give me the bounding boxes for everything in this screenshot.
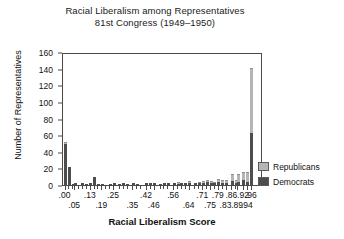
y-axis: Number of Representatives 02040608010012… <box>0 48 62 193</box>
x-tick-label: .94 <box>241 201 253 210</box>
x-minor-tick-mark <box>119 186 120 189</box>
y-tick-label: 140 <box>39 66 53 74</box>
bar-segment-democrats <box>242 180 245 185</box>
histogram-bar <box>113 183 116 185</box>
histogram-bar <box>206 180 209 185</box>
bar-segment-democrats <box>177 184 180 185</box>
x-minor-tick-mark <box>181 186 182 189</box>
x-minor-tick-mark <box>132 186 133 189</box>
x-minor-tick-mark <box>189 186 190 189</box>
bar-segment-democrats <box>231 181 234 185</box>
histogram-bar <box>194 183 197 185</box>
bar-segment-democrats <box>149 183 152 185</box>
x-minor-tick-mark <box>173 186 174 189</box>
x-minor-tick-mark <box>109 186 110 189</box>
bar-segment-democrats <box>109 184 112 185</box>
histogram-bar <box>109 184 112 185</box>
histogram-bar <box>74 183 77 185</box>
bar-segment-democrats <box>184 183 187 185</box>
histogram-bar <box>167 183 170 185</box>
x-minor-tick-mark <box>68 186 69 189</box>
x-minor-tick-mark <box>231 186 232 189</box>
y-axis-title: Number of Representatives <box>13 35 23 175</box>
histogram-bar <box>136 184 139 185</box>
x-minor-tick-mark <box>177 186 178 189</box>
histogram-bar <box>213 182 216 185</box>
bar-segment-republicans <box>242 172 245 180</box>
x-minor-tick-mark <box>136 186 137 189</box>
x-tick-label: .42 <box>140 191 152 200</box>
bar-segment-democrats <box>122 183 125 185</box>
x-minor-tick-mark <box>226 186 227 189</box>
histogram-bar <box>163 183 166 185</box>
bar-segment-democrats <box>68 167 71 185</box>
bar-segment-democrats <box>202 183 205 185</box>
histogram-bar <box>202 181 205 185</box>
chart-subtitle: 81st Congress (1949–1950) <box>40 17 270 29</box>
x-minor-tick-mark <box>235 186 236 189</box>
x-tick-label: .56 <box>167 191 179 200</box>
x-minor-tick-mark <box>113 186 114 189</box>
x-tick-label: .13 <box>84 191 96 200</box>
x-minor-tick-mark <box>72 186 73 189</box>
bar-segment-democrats <box>180 183 183 185</box>
bar-segment-democrats <box>126 184 129 185</box>
histogram-bar <box>64 142 67 185</box>
x-tick-label: .35 <box>126 201 138 210</box>
x-minor-tick-mark <box>101 186 102 189</box>
x-tick-label: .79 <box>212 191 224 200</box>
bar-segment-democrats <box>173 183 176 185</box>
x-tick-label: .00 <box>59 191 71 200</box>
x-minor-tick-mark <box>237 186 238 189</box>
bar-segment-democrats <box>221 183 224 185</box>
x-minor-tick-mark <box>105 186 106 189</box>
x-minor-tick-mark <box>154 186 155 189</box>
legend-label-democrats: Democrats <box>273 177 314 187</box>
bar-segment-democrats <box>81 183 84 185</box>
x-minor-tick-mark <box>127 186 128 189</box>
histogram-bar <box>242 172 245 185</box>
bar-segment-democrats <box>167 183 170 185</box>
histogram-bar <box>126 184 129 185</box>
histogram-bar <box>122 183 125 185</box>
histogram-bar <box>221 180 224 185</box>
histogram-bar <box>198 182 201 185</box>
x-minor-tick-mark <box>167 186 168 189</box>
x-minor-tick-mark <box>202 186 203 189</box>
histogram-bar <box>173 183 176 185</box>
histogram-bar <box>188 181 191 185</box>
bar-segment-democrats <box>159 184 162 185</box>
chart-title: Racial Liberalism among Representatives <box>40 5 270 17</box>
histogram-bar <box>93 177 96 185</box>
bar-segment-democrats <box>101 184 104 185</box>
x-minor-tick-mark <box>97 186 98 189</box>
bar-segment-democrats <box>113 183 116 185</box>
histogram-bar <box>85 184 88 185</box>
x-minor-tick-mark <box>140 186 141 189</box>
histogram-bar <box>101 184 104 185</box>
x-tick-label: .83 <box>220 201 232 210</box>
bar-segment-democrats <box>93 177 96 185</box>
bar-segment-republicans <box>231 174 234 181</box>
bar-segment-democrats <box>74 183 77 185</box>
histogram-bar <box>217 179 220 185</box>
histogram-bar <box>250 68 253 185</box>
x-minor-tick-mark <box>210 186 211 189</box>
bar-segment-democrats <box>237 182 240 185</box>
y-tick-label: 120 <box>39 82 53 90</box>
bar-segment-republicans <box>246 172 249 181</box>
histogram-bar <box>177 182 180 185</box>
x-tick-label: .96 <box>245 191 257 200</box>
bar-segment-democrats <box>210 183 213 185</box>
bar-segment-democrats <box>153 183 156 185</box>
x-minor-tick-mark <box>78 186 79 189</box>
histogram-bar <box>97 184 100 185</box>
bar-segment-democrats <box>145 183 148 185</box>
bar-segment-democrats <box>89 183 92 185</box>
plot-area <box>62 53 262 186</box>
x-tick-label: .46 <box>148 201 160 210</box>
chart-title-block: Racial Liberalism among Representatives … <box>40 5 270 29</box>
y-tick-label: 80 <box>44 116 53 124</box>
x-minor-tick-mark <box>194 186 195 189</box>
bar-segment-democrats <box>85 184 88 185</box>
